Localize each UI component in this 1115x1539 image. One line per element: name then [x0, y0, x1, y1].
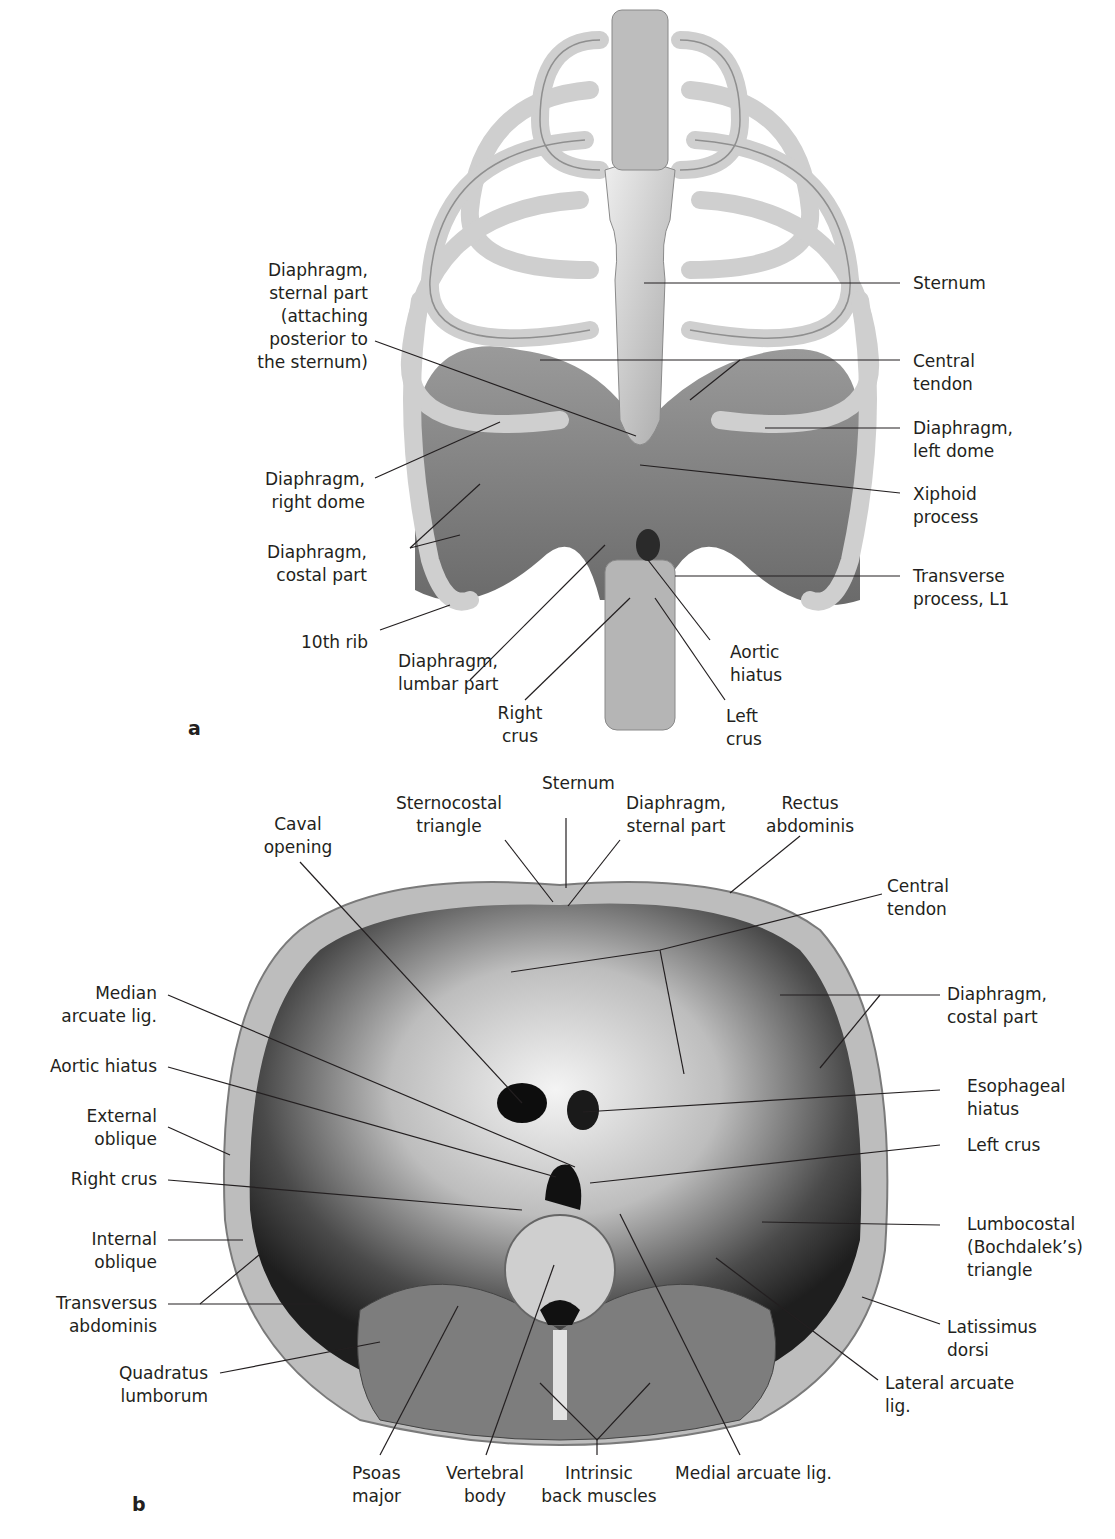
label-central-tendon-b: Central tendon: [887, 875, 949, 921]
label-internal-oblique: Internal oblique: [40, 1228, 157, 1274]
label-sternum-b: Sternum: [542, 772, 615, 795]
esophageal-hiatus-hole: [567, 1090, 599, 1130]
label-transverse-process-l1: Transverse process, L1: [913, 565, 1009, 611]
label-10th-rib: 10th rib: [270, 631, 368, 654]
label-lateral-arcuate-lig: Lateral arcuate lig.: [885, 1372, 1014, 1418]
label-aortic-hiatus-a: Aortic hiatus: [730, 641, 782, 687]
label-sternocostal-triangle: Sternocostal triangle: [390, 792, 508, 838]
label-diaphragm-right-dome: Diaphragm, right dome: [230, 468, 365, 514]
label-right-crus-a: Right crus: [480, 702, 560, 748]
rib-cage-drawing: [410, 10, 870, 730]
label-quadratus-lumborum: Quadratus lumborum: [70, 1362, 208, 1408]
label-psoas-major: Psoas major: [352, 1462, 401, 1508]
label-diaphragm-left-dome: Diaphragm, left dome: [913, 417, 1013, 463]
label-vertebral-body: Vertebral body: [440, 1462, 530, 1508]
vertebral-column: [612, 10, 668, 170]
label-central-tendon-a: Central tendon: [913, 350, 975, 396]
label-external-oblique: External oblique: [40, 1105, 157, 1151]
label-esophageal-hiatus: Esophageal hiatus: [967, 1075, 1065, 1121]
label-xiphoid-process: Xiphoid process: [913, 483, 978, 529]
label-medial-arcuate-lig: Medial arcuate lig.: [675, 1462, 832, 1485]
label-lumbocostal-triangle: Lumbocostal (Bochdalek’s) triangle: [967, 1213, 1083, 1282]
label-left-crus-a: Left crus: [726, 705, 762, 751]
label-left-crus-b: Left crus: [967, 1134, 1040, 1157]
label-diaphragm-costal-part-a: Diaphragm, costal part: [230, 541, 367, 587]
anatomy-illustration: [0, 0, 1115, 1539]
label-sternum-a: Sternum: [913, 272, 986, 295]
label-rectus-abdominis: Rectus abdominis: [760, 792, 860, 838]
panel-letter-a: a: [188, 717, 201, 739]
label-median-arcuate-lig: Median arcuate lig.: [40, 982, 157, 1028]
lumbar-vertebrae: [605, 560, 675, 730]
diaphragm-section-drawing: [224, 882, 887, 1445]
label-diaphragm-lumbar-part: Diaphragm, lumbar part: [398, 650, 499, 696]
label-intrinsic-back-muscles: Intrinsic back muscles: [540, 1462, 658, 1508]
label-aortic-hiatus-b: Aortic hiatus: [20, 1055, 157, 1078]
label-diaphragm-costal-part-b: Diaphragm, costal part: [947, 983, 1047, 1029]
label-right-crus-b: Right crus: [20, 1168, 157, 1191]
label-diaphragm-sternal-part-b: Diaphragm, sternal part: [612, 792, 740, 838]
label-latissimus-dorsi: Latissimus dorsi: [947, 1316, 1037, 1362]
label-diaphragm-sternal-part-a: Diaphragm, sternal part (attaching poste…: [230, 259, 368, 374]
label-caval-opening: Caval opening: [258, 813, 338, 859]
label-transversus-abdominis: Transversus abdominis: [20, 1292, 157, 1338]
panel-letter-b: b: [132, 1493, 146, 1515]
